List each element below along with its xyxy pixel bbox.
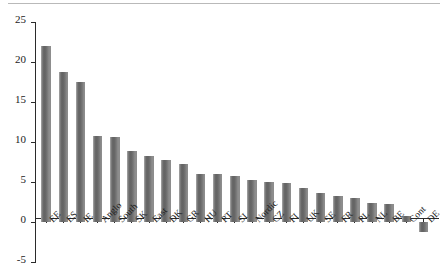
bar-value: 4.9 (283, 183, 284, 184)
top-divider-rule (8, 3, 440, 4)
y-axis-tick-label: 0 (21, 214, 27, 225)
bar-value: 2.2 (385, 204, 386, 205)
bar-value: 5 (265, 182, 266, 183)
bar-value: 6 (214, 174, 215, 175)
bar-value: 3.6 (317, 193, 318, 194)
bar-value: 6 (197, 174, 198, 175)
y-axis-tick-label: 15 (15, 94, 26, 105)
bar-value: 5.8 (231, 176, 232, 177)
bar-value: 2.4 (368, 203, 369, 204)
bar-value: 5.3 (248, 180, 249, 181)
bar-value: 7.3 (180, 164, 181, 165)
bar-value: 8.9 (128, 151, 129, 152)
bar-value: 10.7 (94, 136, 95, 137)
bar-value: 22 (42, 46, 43, 47)
y-axis-tick-label: 10 (15, 134, 26, 145)
y-axis-tick-label: 20 (15, 54, 26, 65)
bar-value: 4.3 (300, 188, 301, 189)
bar: 10.7 (93, 136, 103, 222)
bar-value: 3.2 (334, 196, 335, 197)
bar-chart: -50510152025 2218.717.510.710.68.98.37.7… (0, 0, 448, 280)
y-axis-tick-label: 25 (15, 14, 26, 25)
bar-value: 17.5 (77, 82, 78, 83)
bar: 22 (41, 46, 51, 222)
bar: 17.5 (76, 82, 86, 222)
bar-value: 10.6 (111, 137, 112, 138)
y-axis-tick-label: 5 (21, 174, 27, 185)
bar-value: 8.3 (145, 156, 146, 157)
bar-value: 3 (351, 198, 352, 199)
bar-value: 7.7 (162, 160, 163, 161)
y-axis-tick-label: -5 (17, 254, 26, 265)
bar-value: 18.7 (60, 72, 61, 73)
x-axis-labels: EEESIEAngloSouthSKEastDKGRHUPTSINordicCZ… (35, 218, 439, 280)
bar: 18.7 (59, 72, 69, 222)
